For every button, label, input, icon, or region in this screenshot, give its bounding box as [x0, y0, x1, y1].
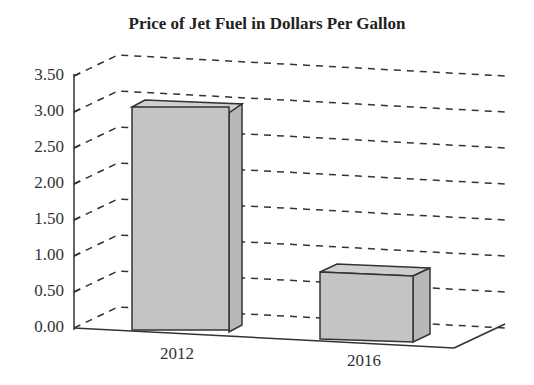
x-tick-label: 2012: [160, 344, 194, 364]
chart-plot-area: [0, 0, 534, 385]
bar-2016: [320, 264, 430, 342]
y-axis: [74, 73, 80, 330]
x-tick-label: 2016: [347, 351, 381, 371]
bar-2012: [132, 100, 242, 332]
